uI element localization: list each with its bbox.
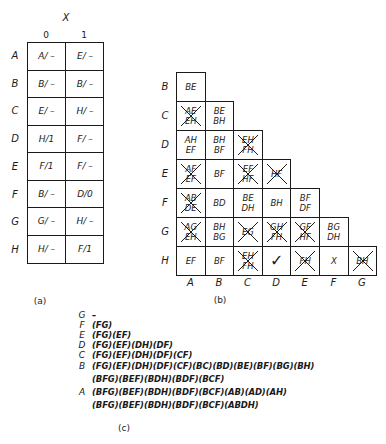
implication-cell: EF	[176, 246, 206, 276]
incompatible-cell: GHFH	[262, 217, 292, 247]
compatible-classes: –	[92, 310, 96, 320]
implication-cell: BFDF	[290, 188, 320, 218]
next-state-output-cell: H/ –	[28, 236, 66, 264]
implication-cell: BF	[205, 246, 235, 276]
column-label: C	[233, 277, 262, 288]
cross-out-icon	[180, 105, 202, 127]
row-label: G	[158, 226, 172, 237]
state-pair: BG	[328, 222, 340, 232]
state-label: B	[76, 361, 88, 371]
compatible-classes: (BFG)(BEF)(BDH)(BDF)(BCF)(ABDH)	[92, 400, 259, 410]
state-pair: BF	[214, 145, 225, 155]
incompatible-cell: EHFH	[233, 246, 263, 276]
cross-out-icon	[180, 192, 202, 214]
state-pair: BG	[213, 232, 225, 242]
next-state-output-cell: F/1	[28, 153, 66, 181]
compatible-classes: (FG)	[92, 320, 112, 330]
state-pair: DH	[242, 203, 255, 213]
implication-cell: AHEF	[176, 130, 206, 160]
column-label: E	[290, 277, 319, 288]
column-label: B	[205, 277, 234, 288]
incompatible-cell: ABDE	[176, 188, 206, 218]
implication-cell: BF	[205, 159, 235, 189]
state-pair: EF	[186, 145, 196, 155]
state-pair: BH	[213, 222, 225, 232]
incompatible-cell: AFEF	[176, 159, 206, 189]
state-label: H	[8, 244, 22, 255]
state-pair: DF	[299, 203, 310, 213]
incompatible-cell: HF	[262, 159, 292, 189]
state-pair: DH	[327, 232, 340, 242]
row-label: D	[158, 139, 172, 150]
next-state-output-cell: B/ –	[28, 181, 66, 209]
state-pair: BD	[213, 198, 225, 208]
implication-cell: BH	[262, 188, 292, 218]
state-label: A	[76, 387, 88, 397]
row-label: H	[158, 255, 172, 266]
state-pair: BF	[214, 169, 225, 179]
column-label: F	[319, 277, 348, 288]
next-state-output-cell: B/ –	[28, 71, 66, 99]
compatible-classes: (BFG)(BEF)(BDH)(BDF)(BCF)(AB)(AD)(AH)	[92, 387, 287, 397]
state-pair: BE	[242, 193, 253, 203]
state-pair: X	[331, 256, 337, 266]
next-state-output-cell: E/ –	[66, 43, 104, 71]
compatible-classes: (FG)(EF)(DH)(DF)(CF)	[92, 350, 192, 360]
next-state-output-cell: D/0	[66, 181, 104, 209]
cross-out-icon	[237, 250, 259, 272]
state-label: F	[8, 189, 22, 200]
implication-cell: BEDH	[233, 188, 263, 218]
compatible-classes: (FG)(EF)	[92, 330, 131, 340]
row-label: E	[158, 168, 172, 179]
implication-cell: BHBG	[205, 217, 235, 247]
cross-out-icon	[180, 163, 202, 185]
state-pair: AH	[185, 135, 197, 145]
caption-b: (b)	[210, 295, 230, 305]
implication-cell: X	[319, 246, 349, 276]
incompatible-cell: EHFH	[233, 130, 263, 160]
cross-out-icon	[352, 250, 374, 272]
state-pair: BF	[214, 256, 225, 266]
implication-cell: BE	[176, 72, 206, 102]
state-label: F	[76, 320, 88, 330]
cross-out-icon	[180, 221, 202, 243]
caption-a: (a)	[30, 296, 50, 306]
incompatible-cell: BH	[348, 246, 378, 276]
column-label: D	[262, 277, 291, 288]
cross-out-icon	[266, 163, 288, 185]
compatible-classes: (BFG)(BEF)(BDH)(BDF)(BCF)	[92, 374, 224, 384]
next-state-output-cell: F/ –	[66, 126, 104, 154]
state-label: A	[8, 50, 22, 61]
caption-c: (c)	[114, 423, 134, 433]
next-state-output-cell: B/ –	[66, 71, 104, 99]
implication-cell: ✓	[262, 246, 292, 276]
cross-out-icon	[237, 163, 259, 185]
state-label: C	[8, 105, 22, 116]
state-pair: BH	[270, 198, 282, 208]
next-state-output-cell: G/ –	[28, 208, 66, 236]
next-state-output-cell: E/ –	[28, 98, 66, 126]
row-label: B	[158, 81, 172, 92]
incompatible-cell: GFHF	[290, 217, 320, 247]
incompatible-cell: EFHF	[233, 159, 263, 189]
state-pair: BE	[185, 82, 196, 92]
state-label: D	[76, 340, 88, 350]
row-label: C	[158, 110, 172, 121]
implication-cell: BGDH	[319, 217, 349, 247]
input-variable-label: X	[58, 12, 74, 23]
state-pair: BF	[300, 193, 311, 203]
incompatible-cell: EG	[233, 217, 263, 247]
state-pair: BH	[213, 116, 225, 126]
state-pair: BH	[213, 135, 225, 145]
next-state-output-cell: H/ –	[66, 98, 104, 126]
column-label: A	[176, 277, 205, 288]
state-pair: BE	[214, 106, 225, 116]
next-state-output-cell: H/1	[28, 126, 66, 154]
state-table: A/ –E/ –B/ –B/ –E/ –H/ –H/1F/ –F/1F/ –B/…	[27, 42, 104, 264]
state-label: E	[8, 161, 22, 172]
implication-cell: BEBH	[205, 101, 235, 131]
state-label: C	[76, 350, 88, 360]
incompatible-cell: AGEH	[176, 217, 206, 247]
next-state-output-cell: A/ –	[28, 43, 66, 71]
state-label: D	[8, 133, 22, 144]
